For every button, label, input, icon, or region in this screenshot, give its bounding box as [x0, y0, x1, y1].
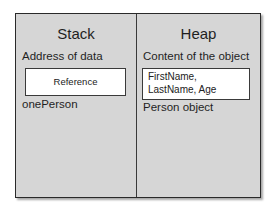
stack-column: Stack Address of data Reference onePerso…	[16, 14, 136, 197]
heap-column: Heap Content of the object FirstName, La…	[137, 14, 260, 197]
heap-object-name: Person object	[143, 101, 213, 113]
stack-label: Address of data	[22, 50, 103, 62]
memory-diagram: Stack Address of data Reference onePerso…	[15, 13, 261, 198]
object-content-box: FirstName, LastName, Age	[142, 68, 250, 100]
heap-label: Content of the object	[143, 50, 249, 62]
heap-title: Heap	[137, 25, 260, 42]
reference-text: Reference	[26, 76, 125, 87]
object-content-text: FirstName, LastName, Age	[148, 71, 246, 96]
stack-title: Stack	[16, 25, 136, 42]
stack-variable-name: onePerson	[22, 98, 78, 110]
reference-box: Reference	[25, 68, 126, 96]
